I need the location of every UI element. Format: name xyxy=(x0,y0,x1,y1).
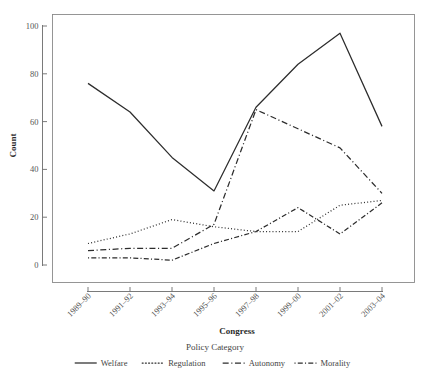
series-layer xyxy=(88,33,382,260)
legend-entry-welfare[interactable]: Welfare xyxy=(75,358,128,368)
legend: Policy CategoryWelfareRegulationAutonomy… xyxy=(75,342,351,368)
y-tick-label: 20 xyxy=(30,212,39,222)
legend-entry-regulation[interactable]: Regulation xyxy=(142,358,206,368)
y-tick-label: 60 xyxy=(30,117,39,127)
y-tick-label: 100 xyxy=(26,21,39,31)
line-chart: 020406080100Count1989–901991–921993–9419… xyxy=(0,0,431,381)
x-tick-label: 1997–98 xyxy=(233,291,261,319)
y-tick-label: 80 xyxy=(30,69,39,79)
x-axis: 1989–901991–921993–941995–961997–981999–… xyxy=(65,287,388,319)
y-axis: 020406080100 xyxy=(26,21,47,270)
legend-entry-morality[interactable]: Morality xyxy=(294,358,350,368)
series-line-morality xyxy=(88,203,382,260)
legend-entry-autonomy[interactable]: Autonomy xyxy=(223,358,286,368)
legend-label-welfare: Welfare xyxy=(101,358,128,368)
x-tick-label: 1991–92 xyxy=(107,291,135,319)
x-tick-label: 1999–00 xyxy=(275,291,303,319)
x-tick-label: 1995–96 xyxy=(191,291,219,319)
x-tick-label: 2003–04 xyxy=(359,290,388,319)
legend-label-regulation: Regulation xyxy=(168,358,206,368)
y-axis-title: Count xyxy=(8,133,18,157)
legend-label-autonomy: Autonomy xyxy=(249,358,286,368)
legend-label-morality: Morality xyxy=(320,358,350,368)
y-tick-label: 40 xyxy=(30,164,39,174)
x-tick-label: 1989–90 xyxy=(65,291,93,319)
x-tick-label: 1993–94 xyxy=(149,290,178,319)
x-axis-title: Congress xyxy=(219,326,255,336)
chart-figure: 020406080100Count1989–901991–921993–9419… xyxy=(0,0,431,381)
y-tick-label: 0 xyxy=(34,260,38,270)
plot-panel-border xyxy=(53,15,415,283)
x-tick-label: 2001–02 xyxy=(317,291,345,319)
legend-title: Policy Category xyxy=(186,342,245,352)
